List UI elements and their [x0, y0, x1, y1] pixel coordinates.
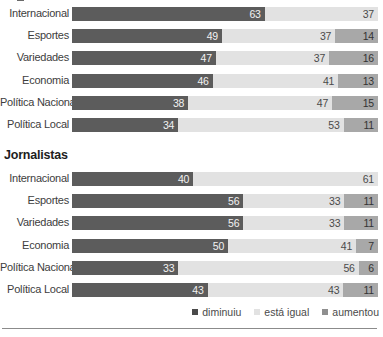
- stacked-bar: 345311: [72, 118, 378, 132]
- bar-value-label: 11: [363, 217, 374, 229]
- bar-segment-esta-igual: 37: [222, 29, 335, 43]
- stacked-bar: 6337: [72, 7, 378, 21]
- bar-value-label: 37: [314, 52, 325, 64]
- bar-segment-aumentou: 11: [344, 194, 378, 208]
- bar-value-label: 15: [363, 97, 374, 109]
- bar-value-label: 56: [228, 195, 239, 207]
- bar-segment-esta-igual: 43: [208, 283, 344, 297]
- chart-row: Variedades473716: [0, 50, 383, 67]
- row-label: Esportes: [0, 29, 69, 41]
- row-label: Política Nacional: [0, 261, 69, 273]
- stacked-bar: 434311: [72, 283, 378, 297]
- legend-swatch-esta-igual-icon: [254, 309, 260, 315]
- bar-segment-esta-igual: 41: [228, 239, 356, 253]
- bar-value-label: 37: [363, 8, 374, 20]
- bar-segment-diminuiu: 46: [72, 74, 213, 88]
- bar-segment-aumentou: 11: [344, 216, 378, 230]
- bar-segment-esta-igual: 37: [265, 7, 378, 21]
- bottom-divider: [2, 328, 377, 329]
- stacked-bar: 563311: [72, 216, 378, 230]
- bar-value-label: 7: [368, 240, 374, 252]
- bar-segment-diminuiu: 50: [72, 239, 228, 253]
- group-heading-2: Jornalistas: [4, 148, 68, 162]
- bar-segment-diminuiu: 56: [72, 216, 243, 230]
- bar-segment-diminuiu: 49: [72, 29, 222, 43]
- legend-swatch-aumentou-icon: [322, 309, 328, 315]
- chart-row: Variedades563311: [0, 215, 383, 232]
- row-label: Economia: [0, 239, 69, 251]
- bar-value-label: 37: [320, 30, 331, 42]
- row-label: Economia: [0, 74, 69, 86]
- legend-label: diminuiu: [202, 306, 241, 318]
- bar-segment-diminuiu: 38: [72, 96, 188, 110]
- bar-segment-aumentou: 14: [335, 29, 378, 43]
- bar-value-label: 40: [178, 173, 189, 185]
- bar-value-label: 43: [328, 284, 339, 296]
- bar-value-label: 56: [343, 262, 354, 274]
- chart-row: Esportes563311: [0, 193, 383, 210]
- legend-swatch-diminuiu-icon: [192, 309, 198, 315]
- bar-value-label: 33: [329, 217, 340, 229]
- bar-value-label: 16: [363, 52, 374, 64]
- bar-segment-esta-igual: 37: [216, 51, 329, 65]
- bar-value-label: 11: [363, 195, 374, 207]
- bar-segment-aumentou: 13: [338, 74, 378, 88]
- stacked-bar: 33566: [72, 261, 378, 275]
- bar-segment-aumentou: 11: [344, 118, 378, 132]
- bar-value-label: 11: [363, 284, 374, 296]
- chart-row: Economia50417: [0, 238, 383, 255]
- bar-value-label: 47: [317, 97, 328, 109]
- stacked-bar: 4061: [72, 172, 378, 186]
- bar-value-label: 43: [192, 284, 203, 296]
- stacked-bar: 50417: [72, 239, 378, 253]
- chart-row: Política Nacional384715: [0, 95, 383, 112]
- row-label: Esportes: [0, 194, 69, 206]
- bar-segment-diminuiu: 34: [72, 118, 178, 132]
- bar-value-label: 49: [207, 30, 218, 42]
- row-label: Variedades: [0, 51, 69, 63]
- bar-value-label: 14: [363, 30, 374, 42]
- bar-value-label: 13: [363, 75, 374, 87]
- bar-segment-diminuiu: 47: [72, 51, 216, 65]
- stacked-bar: 493714: [72, 29, 378, 43]
- bar-segment-esta-igual: 33: [243, 194, 344, 208]
- stacked-bar: 563311: [72, 194, 378, 208]
- legend-item-aumentou: aumentou: [322, 306, 379, 318]
- bar-segment-aumentou: 6: [359, 261, 378, 275]
- bar-value-label: 47: [201, 52, 212, 64]
- stacked-bar-chart: Internacional6337Esportes493714Variedade…: [0, 0, 383, 337]
- bar-value-label: 34: [163, 119, 174, 131]
- bar-value-label: 6: [368, 262, 374, 274]
- legend-label: está igual: [264, 306, 309, 318]
- bar-value-label: 11: [363, 119, 374, 131]
- row-label: Internacional: [0, 7, 69, 19]
- bar-segment-esta-igual: 47: [188, 96, 332, 110]
- bar-segment-diminuiu: 33: [72, 261, 178, 275]
- bar-segment-diminuiu: 43: [72, 283, 208, 297]
- bar-value-label: 63: [249, 8, 260, 20]
- bar-value-label: 38: [173, 97, 184, 109]
- stacked-bar: 473716: [72, 51, 378, 65]
- bar-segment-aumentou: 7: [356, 239, 378, 253]
- bar-segment-esta-igual: 41: [213, 74, 338, 88]
- bar-value-label: 56: [228, 217, 239, 229]
- bar-segment-aumentou: 16: [329, 51, 378, 65]
- bar-value-label: 53: [328, 119, 339, 131]
- legend-label: aumentou: [332, 306, 379, 318]
- bar-segment-diminuiu: 40: [72, 172, 193, 186]
- stacked-bar: 464113: [72, 74, 378, 88]
- bar-value-label: 61: [363, 173, 374, 185]
- chart-row: Internacional4061: [0, 171, 383, 188]
- legend-item-diminuiu: diminuiu: [192, 306, 241, 318]
- bar-value-label: 33: [163, 262, 174, 274]
- stacked-bar: 384715: [72, 96, 378, 110]
- row-label: Variedades: [0, 216, 69, 228]
- row-label: Política Nacional: [0, 96, 69, 108]
- bar-segment-diminuiu: 56: [72, 194, 243, 208]
- chart-row: Economia464113: [0, 73, 383, 90]
- row-label: Política Local: [0, 283, 69, 295]
- bar-value-label: 46: [197, 75, 208, 87]
- bar-segment-esta-igual: 61: [193, 172, 378, 186]
- row-label: Política Local: [0, 118, 69, 130]
- bar-segment-esta-igual: 56: [178, 261, 358, 275]
